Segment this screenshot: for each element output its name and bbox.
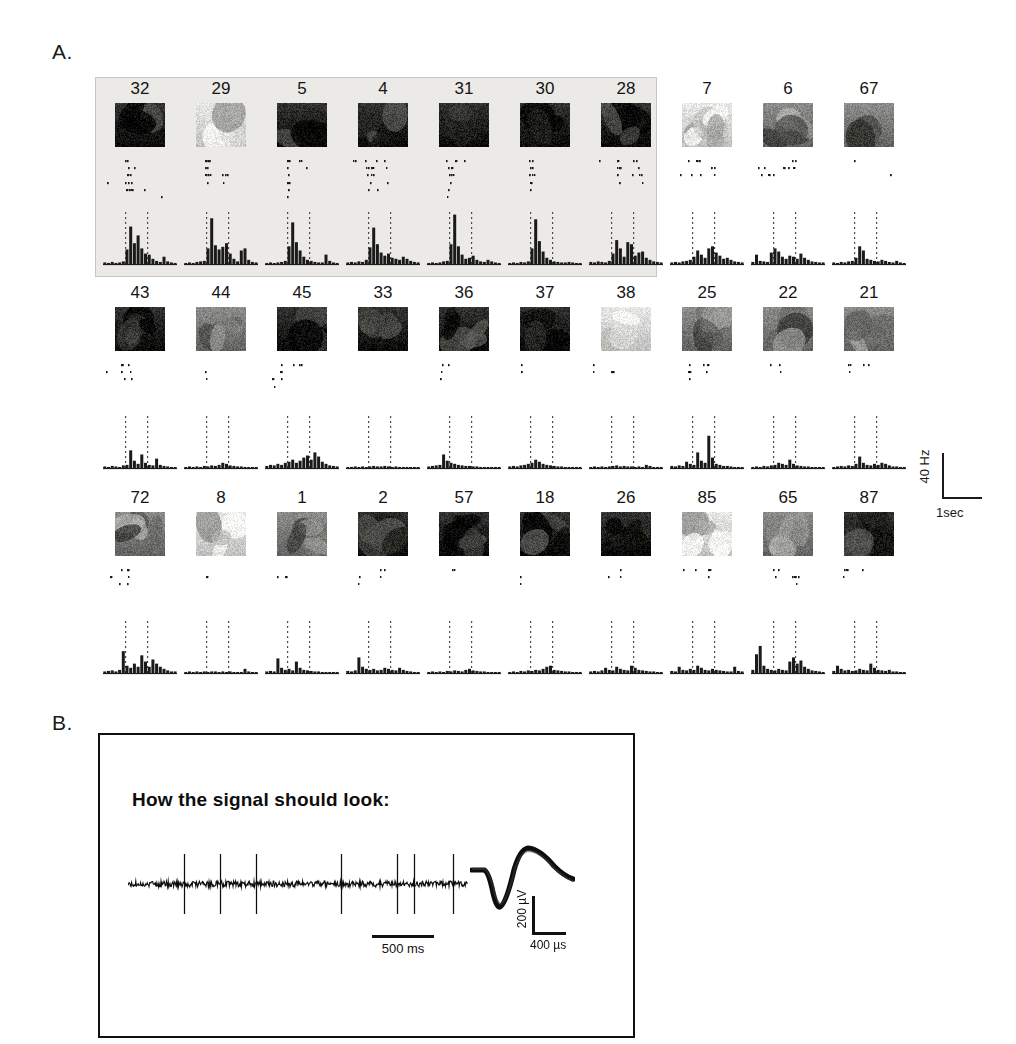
stimulus-id-label: 5 (262, 78, 342, 100)
stimulus-cell-2[interactable]: 2 (343, 487, 423, 692)
stimulus-cell-1[interactable]: 1 (262, 487, 342, 692)
raster-plot (670, 158, 744, 202)
stimulus-thumbnail-woman-dark-portrait-2[interactable] (520, 307, 570, 351)
stimulus-thumbnail-sydney-opera-house[interactable] (682, 512, 732, 556)
stimulus-cell-65[interactable]: 65 (748, 487, 828, 692)
stimulus-cell-45[interactable]: 45 (262, 282, 342, 487)
psth-histogram (427, 410, 501, 472)
raster-plot (670, 567, 744, 611)
stimulus-cell-21[interactable]: 21 (829, 282, 909, 487)
psth-histogram (751, 206, 825, 268)
stimulus-id-label: 44 (181, 282, 261, 304)
psth-histogram (670, 615, 744, 677)
stimulus-cell-87[interactable]: 87 (829, 487, 909, 692)
psth-histogram (508, 615, 582, 677)
stimulus-thumbnail-woman-light-background[interactable] (601, 307, 651, 351)
raster-plot (751, 362, 825, 406)
stimulus-thumbnail-animal-silhouette[interactable] (277, 512, 327, 556)
stimulus-thumbnail-woman-smiling-black-bg[interactable] (358, 307, 408, 351)
stimulus-id-label: 31 (424, 78, 504, 100)
stimulus-thumbnail-aniston-close-up-dark[interactable] (520, 103, 570, 147)
stimulus-thumbnail-basketball-player-dark[interactable] (115, 307, 165, 351)
stimulus-thumbnail-aniston-profile-dark[interactable] (358, 103, 408, 147)
scale-bar-panel-a: 40 Hz 1sec (910, 445, 1005, 550)
psth-histogram (832, 615, 906, 677)
stimulus-thumbnail-couple-photo[interactable] (763, 103, 813, 147)
stimulus-thumbnail-athlete-with-ball[interactable] (277, 307, 327, 351)
stimulus-id-label: 57 (424, 487, 504, 509)
stimulus-cell-33[interactable]: 33 (343, 282, 423, 487)
stimulus-cell-7[interactable]: 7 (667, 78, 747, 283)
stimulus-thumbnail-aniston-smiling-blonde[interactable] (439, 103, 489, 147)
raster-plot (184, 567, 258, 611)
psth-histogram (184, 206, 258, 268)
stimulus-thumbnail-woman-portrait-dark[interactable] (439, 307, 489, 351)
stimulus-thumbnail-two-basketball-players[interactable] (196, 307, 246, 351)
stimulus-thumbnail-man-portrait-indoor[interactable] (763, 307, 813, 351)
stimulus-id-label: 26 (586, 487, 666, 509)
stimulus-thumbnail-jennifer-aniston-portrait-dark[interactable] (115, 103, 165, 147)
stimulus-cell-57[interactable]: 57 (424, 487, 504, 692)
stimulus-cell-28[interactable]: 28 (586, 78, 666, 283)
stimulus-cell-30[interactable]: 30 (505, 78, 585, 283)
stimulus-cell-8[interactable]: 8 (181, 487, 261, 692)
stimulus-cell-25[interactable]: 25 (667, 282, 747, 487)
psth-histogram (427, 206, 501, 268)
stimulus-cell-5[interactable]: 5 (262, 78, 342, 283)
waveform-scale-x-label: 400 µs (530, 938, 566, 952)
stimulus-id-label: 38 (586, 282, 666, 304)
stimulus-cell-38[interactable]: 38 (586, 282, 666, 487)
stimulus-thumbnail-golden-gate-bridge[interactable] (601, 512, 651, 556)
stimulus-thumbnail-dark-haired-woman[interactable] (844, 307, 894, 351)
stimulus-thumbnail-eiffel-tower[interactable] (520, 512, 570, 556)
stimulus-cell-18[interactable]: 18 (505, 487, 585, 692)
stimulus-thumbnail-aniston-dark-portrait[interactable] (601, 103, 651, 147)
stimulus-cell-72[interactable]: 72 (100, 487, 180, 692)
stimulus-thumbnail-aniston-black-background[interactable] (277, 103, 327, 147)
stimulus-cell-31[interactable]: 31 (424, 78, 504, 283)
stimulus-cell-26[interactable]: 26 (586, 487, 666, 692)
stimulus-thumbnail-twin-towers-skyline[interactable] (844, 512, 894, 556)
raster-plot (508, 158, 582, 202)
stimulus-cell-37[interactable]: 37 (505, 282, 585, 487)
psth-histogram (184, 410, 258, 472)
psth-histogram (346, 615, 420, 677)
psth-histogram (832, 410, 906, 472)
stimulus-thumbnail-night-cityscape[interactable] (439, 512, 489, 556)
stimulus-thumbnail-group-photo-light[interactable] (682, 103, 732, 147)
stimulus-id-label: 1 (262, 487, 342, 509)
time-scale-bar-line (372, 935, 434, 938)
stimulus-id-label: 29 (181, 78, 261, 100)
stimulus-id-label: 8 (181, 487, 261, 509)
stimulus-cell-43[interactable]: 43 (100, 282, 180, 487)
waveform-scale-vertical-line (532, 896, 535, 934)
raster-plot (103, 158, 177, 202)
stimulus-thumbnail-blonde-woman-outdoor[interactable] (682, 307, 732, 351)
stimulus-cell-4[interactable]: 4 (343, 78, 423, 283)
stimulus-thumbnail-spider-on-web[interactable] (196, 512, 246, 556)
stimulus-thumbnail-leaning-tower-pisa[interactable] (763, 512, 813, 556)
stimulus-thumbnail-snake-coiled[interactable] (115, 512, 165, 556)
stimulus-cell-85[interactable]: 85 (667, 487, 747, 692)
stimulus-thumbnail-aniston-light-background[interactable] (196, 103, 246, 147)
stimulus-thumbnail-whale-in-water[interactable] (358, 512, 408, 556)
stimulus-cell-36[interactable]: 36 (424, 282, 504, 487)
scale-bar-horizontal-line (942, 497, 982, 499)
stimulus-id-label: 33 (343, 282, 423, 304)
stimulus-cell-32[interactable]: 32 (100, 78, 180, 283)
stimulus-cell-67[interactable]: 67 (829, 78, 909, 283)
stimulus-cell-29[interactable]: 29 (181, 78, 261, 283)
figure-root: A. 3229543130287667 43444533363738252221… (0, 0, 1016, 1044)
psth-histogram (427, 615, 501, 677)
stimulus-cell-6[interactable]: 6 (748, 78, 828, 283)
stimulus-id-label: 30 (505, 78, 585, 100)
stimulus-thumbnail-family-sunglasses[interactable] (844, 103, 894, 147)
raster-plot (265, 567, 339, 611)
psth-histogram (265, 206, 339, 268)
psth-histogram (508, 410, 582, 472)
stimulus-cell-22[interactable]: 22 (748, 282, 828, 487)
stimulus-cell-44[interactable]: 44 (181, 282, 261, 487)
panel-b-label: B. (52, 711, 73, 735)
spike-train-canvas (128, 838, 468, 930)
psth-histogram (103, 410, 177, 472)
